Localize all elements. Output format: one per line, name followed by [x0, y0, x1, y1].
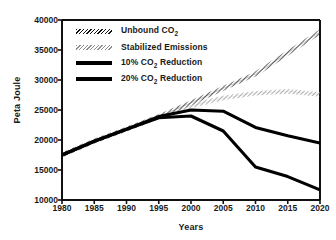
- y-tick-label: 35000: [18, 46, 58, 54]
- legend-swatch-icon: [76, 77, 112, 81]
- legend-item-label: 10% CO2 Reduction: [121, 57, 202, 69]
- chart-legend: Unbound CO2Stabilized Emissions10% CO2 R…: [76, 24, 276, 88]
- legend-item-label: Unbound CO2: [121, 25, 178, 37]
- legend-item[interactable]: Stabilized Emissions: [76, 40, 276, 54]
- legend-item-label: 20% CO2 Reduction: [121, 73, 202, 85]
- legend-item[interactable]: 10% CO2 Reduction: [76, 56, 276, 70]
- legend-swatch-icon: [76, 29, 112, 34]
- y-tick-label: 15000: [18, 166, 58, 174]
- y-tick-label: 40000: [18, 16, 58, 24]
- legend-item-label: Stabilized Emissions: [121, 42, 208, 52]
- x-tick-label: 2020: [300, 203, 336, 213]
- y-tick-label: 20000: [18, 136, 58, 144]
- legend-swatch-icon: [76, 61, 112, 65]
- y-tick-label: 30000: [18, 76, 58, 84]
- series-line: [62, 116, 320, 190]
- x-axis-title: Years: [62, 222, 320, 232]
- legend-swatch-icon: [76, 45, 112, 50]
- legend-item[interactable]: 20% CO2 Reduction: [76, 72, 276, 86]
- chart-figure: Peta Joule 10000150002000025000300003500…: [0, 0, 336, 240]
- y-tick-label: 25000: [18, 106, 58, 114]
- legend-item[interactable]: Unbound CO2: [76, 24, 276, 38]
